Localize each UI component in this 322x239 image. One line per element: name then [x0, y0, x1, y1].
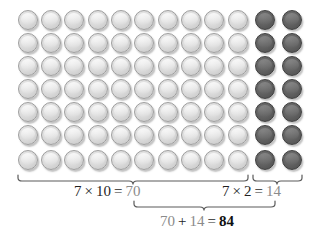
left-factor-a: 7 — [74, 183, 82, 199]
counter-light — [111, 56, 131, 76]
counter-light — [204, 79, 224, 99]
counter-row — [0, 56, 322, 78]
total-addend-b: 14 — [189, 213, 204, 229]
counter-light — [204, 56, 224, 76]
counter-light — [134, 33, 154, 53]
counter-light — [88, 10, 108, 30]
left-factor-b: 10 — [96, 183, 111, 199]
counter-light — [134, 150, 154, 170]
counter-light — [228, 79, 248, 99]
counter-dark — [255, 56, 275, 76]
counter-light — [228, 10, 248, 30]
counter-row — [0, 102, 322, 124]
counter-light — [111, 150, 131, 170]
counter-light — [158, 79, 178, 99]
counter-grid — [0, 0, 322, 180]
counter-light — [41, 10, 61, 30]
counter-light — [111, 33, 131, 53]
right-product: 14 — [266, 183, 281, 199]
counter-light — [204, 125, 224, 145]
counter-row — [0, 10, 322, 32]
counter-light — [64, 56, 84, 76]
counter-dark — [255, 102, 275, 122]
left-times-symbol: × — [82, 183, 96, 199]
counter-row — [0, 150, 322, 172]
right-times-symbol: × — [230, 183, 244, 199]
counter-light — [18, 150, 38, 170]
counter-light — [158, 150, 178, 170]
counter-light — [158, 56, 178, 76]
counter-dark — [282, 102, 302, 122]
total-addend-a: 70 — [160, 213, 175, 229]
counter-dark — [282, 10, 302, 30]
counter-light — [88, 79, 108, 99]
counter-light — [158, 10, 178, 30]
right-equals-symbol: = — [251, 183, 265, 199]
counter-light — [18, 79, 38, 99]
counter-light — [64, 10, 84, 30]
counter-light — [88, 125, 108, 145]
counter-light — [228, 125, 248, 145]
counter-light — [158, 125, 178, 145]
counter-light — [88, 150, 108, 170]
counter-light — [41, 125, 61, 145]
counter-light — [88, 102, 108, 122]
counter-light — [228, 102, 248, 122]
counter-light — [204, 150, 224, 170]
counter-light — [41, 150, 61, 170]
counter-dark — [282, 125, 302, 145]
counter-light — [181, 150, 201, 170]
counter-light — [134, 102, 154, 122]
equation-total: 70+14=84 — [160, 212, 234, 230]
counter-light — [158, 33, 178, 53]
counter-light — [181, 79, 201, 99]
left-equals-symbol: = — [111, 183, 125, 199]
counter-light — [18, 102, 38, 122]
counter-dark — [255, 125, 275, 145]
counter-light — [41, 56, 61, 76]
equation-left-partial-product: 7×10=70 — [74, 182, 140, 200]
counter-light — [64, 33, 84, 53]
counter-light — [228, 33, 248, 53]
counter-light — [64, 150, 84, 170]
counter-dark — [282, 56, 302, 76]
counter-light — [181, 10, 201, 30]
counter-light — [88, 56, 108, 76]
counter-dark — [282, 33, 302, 53]
total-equals-symbol: = — [204, 213, 218, 229]
counter-light — [41, 33, 61, 53]
counter-light — [181, 102, 201, 122]
counter-light — [204, 33, 224, 53]
counter-light — [134, 125, 154, 145]
counter-row — [0, 79, 322, 101]
counter-light — [18, 56, 38, 76]
figure-canvas: 7×10=70 7×2=14 70+14=84 — [0, 0, 322, 239]
counter-dark — [282, 150, 302, 170]
counter-light — [181, 56, 201, 76]
total-plus-symbol: + — [175, 213, 189, 229]
counter-light — [134, 10, 154, 30]
left-product: 70 — [125, 183, 140, 199]
counter-light — [64, 125, 84, 145]
counter-light — [111, 125, 131, 145]
counter-light — [204, 10, 224, 30]
counter-row — [0, 125, 322, 147]
counter-light — [181, 33, 201, 53]
counter-light — [18, 33, 38, 53]
counter-dark — [255, 33, 275, 53]
counter-light — [111, 10, 131, 30]
equation-right-partial-product: 7×2=14 — [222, 182, 281, 200]
counter-light — [18, 125, 38, 145]
counter-light — [134, 56, 154, 76]
counter-light — [204, 102, 224, 122]
counter-dark — [255, 10, 275, 30]
counter-light — [41, 79, 61, 99]
counter-light — [64, 79, 84, 99]
counter-light — [88, 33, 108, 53]
counter-dark — [255, 79, 275, 99]
counter-light — [64, 102, 84, 122]
counter-dark — [282, 79, 302, 99]
counter-dark — [255, 150, 275, 170]
counter-light — [228, 56, 248, 76]
counter-row — [0, 33, 322, 55]
